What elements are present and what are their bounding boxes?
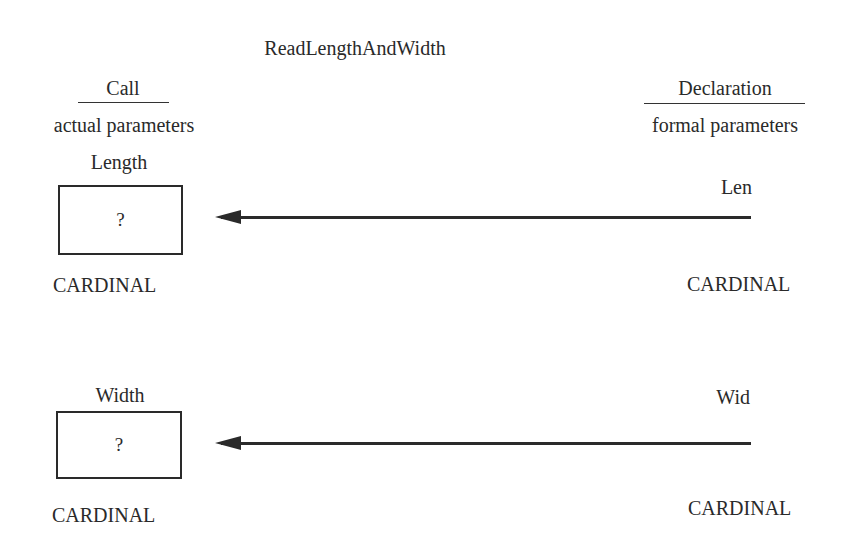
formal-param-type-len: CARDINAL [687,272,790,296]
actual-param-type-width: CARDINAL [52,503,155,527]
actual-param-box-width: ? [56,411,182,479]
declaration-heading: Declaration [678,76,771,100]
actual-param-name-length: Length [91,150,148,174]
actual-param-name-width: Width [95,383,144,407]
formal-param-type-wid: CARDINAL [688,496,791,520]
diagram-title: ReadLengthAndWidth [264,36,445,60]
declaration-subheading: formal parameters [652,113,798,137]
call-subheading: actual parameters [54,113,194,137]
actual-param-type-length: CARDINAL [53,273,156,297]
call-heading-underline [78,102,169,103]
arrow-wid-to-width [221,442,751,445]
arrowhead-icon [215,436,241,450]
actual-param-value-length: ? [116,209,124,231]
formal-param-name-wid: Wid [716,385,750,409]
arrow-len-to-length [221,216,751,219]
actual-param-value-width: ? [115,434,123,456]
declaration-heading-underline [644,103,805,104]
actual-param-box-length: ? [58,185,183,255]
call-heading: Call [106,76,139,100]
formal-param-name-len: Len [721,175,752,199]
arrowhead-icon [215,210,241,224]
